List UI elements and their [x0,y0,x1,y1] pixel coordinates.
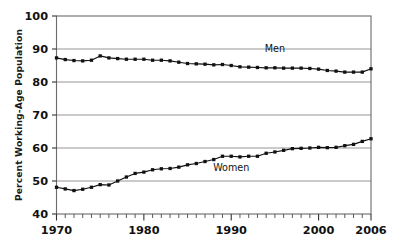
data-point [186,62,189,65]
data-point [212,63,215,66]
y-axis-tickmarks [52,16,57,214]
data-point [317,146,320,149]
data-point [195,62,198,65]
data-point [291,66,294,69]
data-point [256,66,259,69]
y-tick-label-80: 80 [32,76,48,89]
data-point [352,70,355,73]
data-point [369,137,372,140]
data-point [273,150,276,153]
y-axis-title-text: Percent Working-Age Population [13,29,24,201]
data-point [282,149,285,152]
data-point [72,189,75,192]
y-tick-label-100: 100 [24,10,48,23]
data-point [160,167,163,170]
data-point [308,146,311,149]
data-point [352,143,355,146]
y-tick-label-40: 40 [32,208,48,221]
y-tick-label-60: 60 [32,142,48,155]
x-axis-tick-labels: 19701980199020002006 [41,224,387,237]
data-point [334,69,337,72]
data-point [133,58,136,61]
data-point [168,59,171,62]
data-point [265,66,268,69]
data-point [116,179,119,182]
data-point [195,162,198,165]
data-point [125,58,128,61]
data-point [343,70,346,73]
y-tick-label-50: 50 [32,175,48,188]
data-point [317,67,320,70]
x-axis-tickmarks [57,214,372,221]
data-point [256,155,259,158]
data-point [203,63,206,66]
data-point [238,65,241,68]
data-point [151,59,154,62]
data-point [142,58,145,61]
data-point [343,144,346,147]
data-point [177,165,180,168]
y-tick-label-90: 90 [32,43,48,56]
data-point [116,57,119,60]
series-annotation-men: Men [265,43,285,54]
data-point [299,66,302,69]
data-point [107,56,110,59]
y-axis-tick-labels: 405060708090100 [24,10,48,221]
data-point [238,155,241,158]
series-men [55,54,373,73]
data-point [326,69,329,72]
data-point [203,160,206,163]
data-point [55,56,58,59]
series-annotation-women: Women [213,162,249,173]
data-point [361,70,364,73]
data-point [107,183,110,186]
data-point [299,147,302,150]
data-point [151,168,154,171]
data-point [55,186,58,189]
x-tick-label-1980: 1980 [128,224,160,237]
data-point [326,146,329,149]
percent-working-age-population-line-chart: 405060708090100 19701980199020002006 Men… [0,0,399,242]
data-point [221,155,224,158]
data-point [265,152,268,155]
data-point [177,61,180,64]
y-tick-label-70: 70 [32,109,48,122]
data-point [99,183,102,186]
x-tick-label-1990: 1990 [215,224,247,237]
data-point [308,67,311,70]
data-point [90,59,93,62]
data-point [361,140,364,143]
data-point [125,175,128,178]
data-point [142,170,145,173]
data-point [81,59,84,62]
chart-container: 405060708090100 19701980199020002006 Men… [0,0,399,242]
data-point [282,66,285,69]
data-point [160,59,163,62]
data-point [291,147,294,150]
data-point [99,54,102,57]
data-point [273,66,276,69]
data-point [186,163,189,166]
data-point [369,67,372,70]
data-point [133,172,136,175]
data-point [72,59,75,62]
data-point [168,167,171,170]
data-point [230,155,233,158]
data-point [334,146,337,149]
y-axis-title: Percent Working-Age Population [13,29,24,201]
data-point [221,63,224,66]
data-point [64,58,67,61]
x-tick-label-1970: 1970 [41,224,73,237]
x-tick-label-2006: 2006 [355,224,387,237]
data-point [64,187,67,190]
data-point [90,186,93,189]
data-point [247,66,250,69]
data-point [247,155,250,158]
x-tick-label-2000: 2000 [303,224,335,237]
data-point [212,158,215,161]
data-point [81,188,84,191]
data-point [230,64,233,67]
